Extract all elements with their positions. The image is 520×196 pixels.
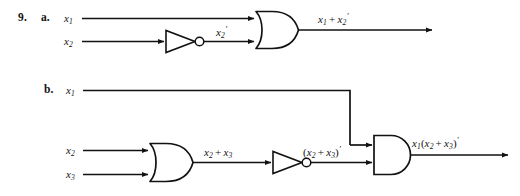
operator-plus: + (327, 13, 338, 25)
not-gate-b-bubble (302, 158, 311, 167)
item-number: 9. (18, 12, 27, 24)
label-b-input-x3: x3 (66, 169, 75, 180)
logic-circuit-diagram (0, 0, 520, 196)
label-a-output-expression: x1+x2′ (318, 14, 349, 25)
var-subscript: 2 (69, 40, 73, 49)
operator-plus: + (433, 137, 444, 149)
part-b-letter: b. (44, 84, 53, 96)
term-1: x1 (318, 13, 327, 25)
prime-mark: ′ (339, 144, 341, 154)
term-2: x3 (223, 146, 232, 158)
label-a-input-x2: x2 (64, 36, 73, 47)
var-subscript: 3 (71, 173, 75, 182)
term-1: x2 (307, 146, 316, 158)
not-gate-a-bubble (195, 37, 204, 46)
term-3: x3 (444, 137, 453, 149)
term-1: x1 (412, 137, 421, 149)
label-b-input-x2: x2 (66, 145, 75, 156)
or-gate-b-body (150, 144, 193, 182)
prime-mark: ′ (225, 24, 227, 34)
term-1: x2 (204, 146, 213, 158)
wire-b-x1 (83, 91, 350, 146)
or-gate-a-body (256, 12, 299, 49)
term-2: x3 (326, 146, 335, 158)
figure-page: 9. a. x1 x2 x2′ x1+x2′ b. x1 x2 x3 x2+x3… (0, 0, 520, 196)
label-b-not-output-expression: (x2+x3)′ (303, 147, 341, 158)
prime-mark: ′ (457, 135, 459, 145)
paren-close: ) (453, 137, 457, 149)
label-b-input-x1: x1 (66, 85, 75, 96)
not-gate-a-body (166, 31, 195, 53)
var-subscript: 1 (71, 89, 75, 98)
label-b-or-output-expression: x2+x3 (204, 147, 232, 158)
and-gate-b-body (374, 136, 411, 175)
var-subscript: 2 (71, 149, 75, 158)
part-b-circuit (83, 91, 508, 182)
not-gate-b-body (273, 152, 302, 174)
label-b-output-expression: x1(x2+x3)′ (412, 138, 459, 149)
operator-plus: + (213, 146, 224, 158)
operator-plus: + (316, 146, 327, 158)
label-a-input-x1: x1 (64, 13, 73, 24)
var-subscript: 1 (69, 17, 73, 26)
part-a-letter: a. (41, 12, 50, 24)
part-a-circuit (82, 12, 432, 53)
label-a-not-output: x2′ (216, 27, 227, 38)
term-2: x2′ (337, 13, 348, 25)
